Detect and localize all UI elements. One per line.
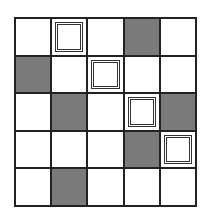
grid-cell-r4-c0-empty <box>15 168 51 206</box>
grid-cell-r4-c3-empty <box>124 168 160 206</box>
grid-cell-r2-c1-shaded <box>51 93 87 131</box>
grid-cell-r4-c4-empty <box>160 168 196 206</box>
grid-cell-r2-c0-empty <box>15 93 51 131</box>
grid-cell-r2-c4-shaded <box>160 93 196 131</box>
double-square-marker <box>55 22 83 52</box>
double-square-marker <box>128 97 156 127</box>
double-square-marker <box>91 60 119 90</box>
grid-cell-r0-c2-empty <box>87 18 123 56</box>
grid-cell-r1-c3-empty <box>124 56 160 94</box>
grid-cell-r3-c2-empty <box>87 131 123 169</box>
grid-cell-r1-c2-box <box>87 56 123 94</box>
grid-cell-r1-c0-shaded <box>15 56 51 94</box>
grid-cell-r3-c4-box <box>160 131 196 169</box>
grid-cell-r1-c1-empty <box>51 56 87 94</box>
grid-cell-r0-c0-empty <box>15 18 51 56</box>
grid-cell-r0-c1-box <box>51 18 87 56</box>
grid-cell-r4-c2-empty <box>87 168 123 206</box>
double-square-marker <box>164 135 192 165</box>
grid-cell-r2-c2-empty <box>87 93 123 131</box>
grid-cell-r3-c1-empty <box>51 131 87 169</box>
grid-cell-r1-c4-empty <box>160 56 196 94</box>
grid-cell-r2-c3-box <box>124 93 160 131</box>
grid-cell-r3-c0-empty <box>15 131 51 169</box>
grid-cell-r4-c1-shaded <box>51 168 87 206</box>
grid-cell-r3-c3-shaded <box>124 131 160 169</box>
grid-cell-r0-c4-empty <box>160 18 196 56</box>
puzzle-grid <box>14 17 197 207</box>
grid-cell-r0-c3-shaded <box>124 18 160 56</box>
